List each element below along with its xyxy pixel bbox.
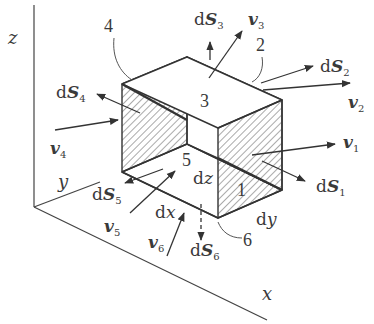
x-axis: [34, 207, 267, 320]
face-label-6: 6: [243, 230, 252, 250]
face-label-3: 3: [200, 91, 209, 111]
face-label-2: 2: [256, 35, 265, 55]
face-label-5: 5: [182, 150, 191, 170]
edge-label-dx: dx: [155, 202, 176, 222]
edge-label-dy: dy: [256, 209, 277, 229]
face-label-4: 4: [104, 16, 113, 36]
label-dS1: dS1: [316, 176, 346, 198]
control-volume-cube: [122, 57, 282, 218]
label-v5: v5: [104, 216, 120, 238]
label-v3: v3: [248, 9, 264, 31]
v4-arrow: [55, 120, 118, 130]
v3-arrow: [209, 31, 242, 78]
label-v2: v2: [348, 92, 364, 114]
label-v6: v6: [148, 232, 164, 254]
edge-label-dz: dz: [193, 168, 214, 188]
x-axis-label: x: [262, 283, 272, 304]
label-dS5: dS5: [92, 184, 122, 206]
y-axis-label: y: [57, 171, 69, 192]
label-dS4: dS4: [56, 82, 86, 104]
v2-arrow: [263, 83, 350, 90]
label-dS2: dS2: [320, 56, 350, 78]
z-axis-label: z: [7, 27, 18, 48]
control-volume-diagram: z y x 1 2 3 4 5 6 dx dy dz: [0, 0, 374, 324]
face-label-1: 1: [237, 180, 246, 200]
label-v4: v4: [50, 138, 66, 160]
label-dS3: dS3: [194, 9, 224, 31]
label-v1: v1: [343, 132, 359, 154]
dS2-arrow: [261, 66, 313, 83]
label-dS6: dS6: [190, 240, 220, 262]
